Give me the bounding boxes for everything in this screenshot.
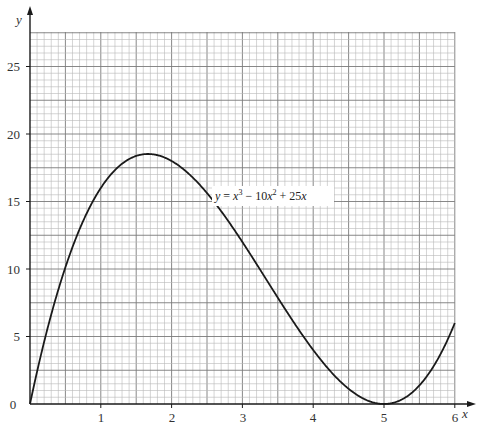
x-tick-label-3: 3 [240, 410, 247, 425]
x-tick-label-5: 5 [381, 410, 388, 425]
cubic-function-plot: 0 1 2 3 4 5 6 5 10 15 20 25 y x y = x3 −… [0, 0, 485, 431]
grid-lines [30, 32, 455, 404]
x-tick-label-6: 6 [452, 410, 459, 425]
x-tick-label-2: 2 [169, 410, 176, 425]
eq-x3: x [300, 189, 307, 203]
x-axis-arrow-icon [467, 401, 476, 407]
y-tick-label-10: 10 [7, 262, 20, 277]
x-tick-label-4: 4 [310, 410, 317, 425]
svg-text:y = x3 − 10x2 + 25x: y = x3 − 10x2 + 25x [214, 188, 307, 203]
eq-plus-25: + 25 [277, 189, 302, 203]
y-axis-arrow-icon [27, 6, 33, 15]
tick-labels: 0 1 2 3 4 5 6 5 10 15 20 25 y x [7, 12, 468, 425]
x-axis-label: x [461, 406, 468, 421]
y-tick-label-20: 20 [7, 127, 20, 142]
eq-equals: = [220, 189, 233, 203]
y-tick-label-5: 5 [14, 329, 21, 344]
eq-minus-10: − 10 [242, 189, 267, 203]
y-tick-label-25: 25 [7, 59, 20, 74]
x-tick-label-1: 1 [98, 410, 105, 425]
equation-label: y = x3 − 10x2 + 25x [212, 186, 334, 206]
origin-label: 0 [10, 397, 17, 412]
y-tick-label-15: 15 [7, 194, 20, 209]
y-axis-label: y [14, 12, 22, 27]
